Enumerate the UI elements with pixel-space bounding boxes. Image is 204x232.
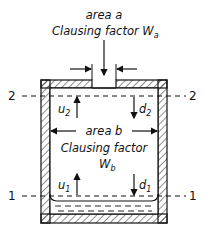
clausing-factor-a-label: Clausing factor Wa bbox=[52, 24, 159, 40]
area-a-label: area a bbox=[86, 8, 123, 22]
plane-2-right-label: 2 bbox=[189, 89, 197, 103]
clausing-factor-b-label: Clausing factor bbox=[61, 141, 149, 155]
plane-2-left-label: 2 bbox=[8, 89, 16, 103]
area-b-label: area b bbox=[86, 124, 123, 138]
plane-1-right-label: 1 bbox=[189, 189, 197, 203]
plane-1-left-label: 1 bbox=[8, 189, 16, 203]
clausing-diagram: area a Clausing factor Wa 2 2 u2 d2 area… bbox=[0, 0, 204, 232]
